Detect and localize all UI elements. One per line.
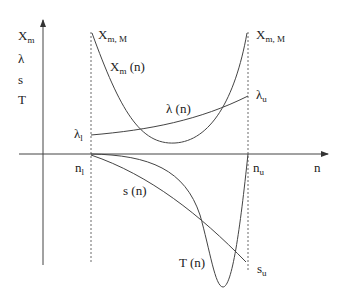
s-curve xyxy=(91,155,246,262)
t-curve-label: T (n) xyxy=(179,256,205,269)
n-upper-label: nu xyxy=(253,161,264,177)
t-curve xyxy=(91,154,248,287)
xm-max-left-label: Xm, M xyxy=(98,28,127,44)
diagram: Xm λ s T Xm, M Xm, M Xm (n) λ (n) λl λu … xyxy=(0,0,342,299)
y-label-lambda: λ xyxy=(18,52,24,65)
xm-max-right-label: Xm, M xyxy=(256,28,285,44)
y-label-s: s xyxy=(18,73,23,86)
y-label-xm: Xm xyxy=(18,29,34,45)
lambda-curve-label: λ (n) xyxy=(166,102,191,115)
y-label-t: T xyxy=(18,93,26,106)
lambda-lower-label: λl xyxy=(74,127,83,143)
xm-curve-label: Xm (n) xyxy=(110,60,145,76)
xm-curve xyxy=(92,33,247,143)
n-lower-label: nl xyxy=(75,161,84,177)
diagram-canvas xyxy=(0,0,342,299)
s-upper-label: su xyxy=(257,262,267,278)
lambda-upper-label: λu xyxy=(256,88,267,104)
x-axis-label: n xyxy=(314,161,321,174)
s-curve-label: s (n) xyxy=(123,184,146,197)
